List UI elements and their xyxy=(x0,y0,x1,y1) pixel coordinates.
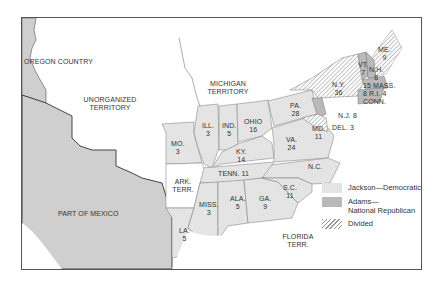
legend-adams: Adams—National Republican xyxy=(322,197,421,215)
label-ri: 8 R.I. 4 xyxy=(363,90,386,98)
label-mexico: PART OF MEXICO xyxy=(58,210,119,218)
label-michigan-territory: MICHIGAN TERRITORY xyxy=(200,80,256,96)
legend-divided: Divided xyxy=(322,219,421,229)
label-va: VA.24 xyxy=(286,136,297,152)
mexico xyxy=(22,95,172,269)
label-ny: N.Y.36 xyxy=(332,81,345,97)
jackson-swatch xyxy=(322,183,342,193)
label-la: LA.5 xyxy=(179,227,190,243)
label-oh: OHIO16 xyxy=(244,118,262,134)
label-nh: N.H.8 xyxy=(369,66,383,82)
label-ms: MISS.3 xyxy=(199,201,219,217)
label-tn: TENN. 11 xyxy=(218,170,249,178)
label-unorganized-territory: UNORGANIZED TERRITORY xyxy=(80,96,140,112)
label-sc: S.C.11 xyxy=(283,184,297,200)
label-mo: MO.3 xyxy=(171,140,185,156)
label-vt: VT.7 xyxy=(358,61,368,77)
label-ky: KY.14 xyxy=(236,148,247,164)
label-nc: N.C. xyxy=(308,163,322,171)
label-md: MD.11 xyxy=(312,125,325,141)
label-oregon-country: OREGON COUNTRY xyxy=(24,58,93,66)
label-florida-territory: FLORIDA TERR. xyxy=(281,233,315,249)
state-ny xyxy=(290,54,364,98)
label-pa: PA.28 xyxy=(290,102,301,118)
label-ga: GA.9 xyxy=(259,195,271,211)
legend: Jackson—Democratic Adams—National Republ… xyxy=(322,183,421,233)
adams-swatch xyxy=(322,197,342,207)
label-arkansas-territory: ARK. TERR. xyxy=(169,178,197,194)
label-nj: N.J. 8 xyxy=(338,112,357,120)
legend-jackson: Jackson—Democratic xyxy=(322,183,421,193)
label-il: ILL.3 xyxy=(202,122,214,138)
label-me: ME.9 xyxy=(378,46,391,62)
label-conn: CONN. xyxy=(363,98,386,106)
label-mass: 15 MASS. xyxy=(363,82,395,90)
label-del: DEL. 3 xyxy=(332,124,354,132)
divided-swatch xyxy=(322,219,342,229)
label-in: IND.5 xyxy=(222,122,236,138)
label-al: ALA.5 xyxy=(230,195,246,211)
